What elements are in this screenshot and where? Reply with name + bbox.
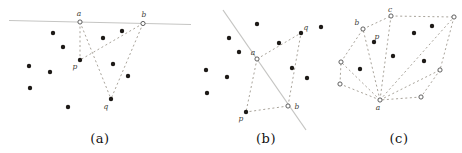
dashed-edge-c-lr-a [380,97,421,100]
data-point-c-2 [391,54,395,58]
vertex-a-a-open-circle [78,20,82,24]
data-point-b-2 [277,41,281,45]
caption-a: (a) [90,131,109,146]
vertex-c-lr-open-circle [419,95,423,99]
data-point-c-1 [430,24,434,28]
data-point-b-3 [237,50,241,54]
data-point-b-9 [319,25,323,29]
vertex-c-a-open-circle [378,98,382,102]
data-point-a-3 [61,45,65,49]
data-point-a-5 [48,70,52,74]
vertex-label-b-a: a [251,48,255,57]
data-point-b-5 [225,75,229,79]
dashed-edge-c-tr-r [440,17,454,70]
data-point-b-0 [255,22,259,26]
caption-b: (b) [256,131,276,146]
data-point-a-9 [66,105,70,109]
vertex-c-ll-open-circle [338,82,342,86]
vertex-c-l-open-circle [339,60,343,64]
data-point-c-4 [358,67,362,71]
data-point-a-6 [111,62,115,66]
vertex-label-a-b: b [142,10,147,19]
data-point-a-7 [126,74,130,78]
vertex-b-a-open-circle [255,57,259,61]
vertex-label-c-c: c [388,5,393,14]
data-point-a-2 [120,29,124,33]
vertex-label-a-p: p [73,62,78,71]
vertex-a-b-open-circle [141,21,145,25]
data-point-a-1 [101,36,105,40]
data-point-a-4 [27,64,31,68]
vertex-label-b-b: b [295,102,300,111]
vertex-label-a-a: a [77,9,81,18]
dashed-edge-a-b-q [111,24,143,100]
vertex-label-c-a: a [376,103,380,112]
vertex-c-r-open-circle [438,68,442,72]
vertex-a-q-point [109,97,113,101]
dashed-edge-c-a-c [380,16,391,100]
dashed-edge-c-b-c [363,16,391,29]
vertex-label-c-b: b [355,18,360,27]
data-point-b-7 [305,76,309,80]
data-point-c-3 [422,59,426,63]
data-point-a-8 [28,86,32,90]
dashed-edge-b-b-q [288,33,301,106]
vertex-label-b-q: q [304,23,309,32]
dashed-edge-c-r-lr [421,70,440,97]
vertex-b-b-open-circle [286,104,290,108]
dashed-edge-b-a-p [246,59,257,112]
vertex-b-p-point [244,110,248,114]
dashed-edge-c-l-b [341,29,363,62]
dashed-edge-b-a-q [257,33,301,59]
dashed-edge-c-ll-l [340,62,341,84]
vertex-a-p-point [78,58,82,62]
data-point-c-0 [412,31,416,35]
reference-line-b-0 [223,10,306,130]
data-point-b-4 [204,68,208,72]
dashed-edge-b-b-p [246,106,288,112]
data-point-b-6 [290,66,294,70]
dashed-edge-c-a-r [380,70,440,100]
dashed-edge-a-a-q [80,22,111,99]
data-point-b-8 [205,91,209,95]
figure-panel: abpqabpqabcp (a) (b) (c) [0,0,462,153]
vertex-label-b-p: p [239,114,244,123]
caption-c: (c) [390,131,409,146]
dashed-edge-c-a-ll [340,84,380,100]
vertex-c-c-open-circle [389,14,393,18]
data-point-b-1 [227,36,231,40]
dashed-edge-a-b-p [80,24,143,61]
vertex-b-q-point [299,31,303,35]
data-point-a-0 [51,31,55,35]
vertex-label-a-q: q [104,102,109,111]
reference-line-a-0 [9,21,191,25]
dashed-edge-c-c-tr [391,16,454,17]
vertex-c-b-open-circle [361,27,365,31]
vertex-c-tr-open-circle [452,15,456,19]
vertex-label-c-p: p [375,32,380,41]
